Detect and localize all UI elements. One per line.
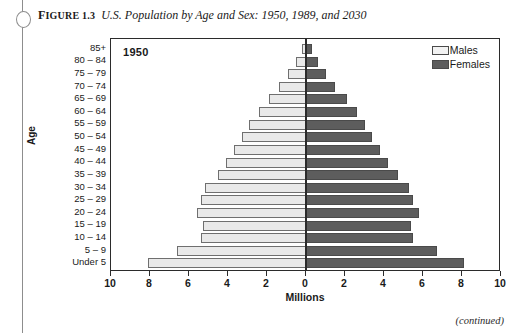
y-axis-tick-label: 20 – 24 [44,207,106,217]
bar-female [306,208,419,218]
bar-male [203,221,306,231]
x-axis-tick [344,271,345,276]
y-axis-tick-label: 85+ [44,43,106,53]
y-axis-tick-labels: 85+80 – 8475 – 7970 – 7465 – 6960 – 6455… [44,38,106,271]
figure-label: FIGURE 1.3 [38,10,95,21]
chart-plot-frame: 1950 MalesFemales [110,38,500,271]
x-axis-tick [383,271,384,276]
chart-year-annotation: 1950 [123,46,149,58]
x-axis-tick-label: 8 [449,277,473,289]
bar-female [306,258,464,268]
bar-male [259,107,306,117]
bar-female [306,195,413,205]
y-axis-tick-label: 50 – 54 [44,131,106,141]
bar-male [234,145,306,155]
bar-female [306,183,409,193]
y-axis-tick-label: Under 5 [44,257,106,267]
x-axis-tick-label: 10 [488,277,512,289]
bar-female [306,120,365,130]
bar-female [306,221,411,231]
x-axis-tick-label: 8 [137,277,161,289]
x-axis-tick [149,271,150,276]
figure-caption: FIGURE 1.3U.S. Population by Age and Sex… [38,8,367,23]
bar-male [242,132,306,142]
y-axis-tick-label: 40 – 44 [44,156,106,166]
bar-male [197,208,306,218]
y-axis-tick-label: 75 – 79 [44,68,106,78]
bar-male [148,258,306,268]
x-axis-tick [266,271,267,276]
bar-male [288,69,306,79]
bar-male [201,233,306,243]
figure-number: 1.3 [82,10,95,21]
y-axis-tick-label: 15 – 19 [44,219,106,229]
x-axis-tick-label: 10 [98,277,122,289]
bar-female [306,132,372,142]
y-axis-tick-label: 45 – 49 [44,144,106,154]
x-axis-tick-labels: 1086420246810 [110,277,500,291]
figure-label-prefix: F [38,8,46,22]
y-axis-tick-label: 80 – 84 [44,55,106,65]
x-axis-tick-label: 6 [410,277,434,289]
bar-female [306,246,437,256]
legend-swatch-icon [432,46,449,55]
bar-female [306,44,312,54]
x-axis-tick-label: 4 [215,277,239,289]
figure-label-rest: IGURE [46,10,80,21]
bar-female [306,158,388,168]
x-axis-tick-label: 4 [371,277,395,289]
x-axis-tick [500,271,501,276]
bar-male [201,195,306,205]
y-axis-tick-label: 60 – 64 [44,106,106,116]
bar-female [306,233,413,243]
bar-male [177,246,306,256]
y-axis-tick-label: 55 – 59 [44,118,106,128]
legend-swatch-icon [432,60,449,69]
x-axis-tick [422,271,423,276]
bar-male [269,94,306,104]
figure-title: U.S. Population by Age and Sex: 1950, 19… [101,8,366,22]
bar-female [306,57,318,67]
legend-item: Females [432,58,490,70]
bar-male [279,82,306,92]
x-axis-tick-label: 0 [293,277,317,289]
x-axis-tick [461,271,462,276]
continued-note: (continued) [456,315,504,326]
x-axis-title: Millions [0,291,526,303]
y-axis-tick-label: 70 – 74 [44,81,106,91]
bar-male [205,183,306,193]
bar-female [306,107,357,117]
bar-male [218,170,306,180]
x-axis-tick [305,271,306,276]
bar-female [306,170,398,180]
bar-female [306,145,380,155]
x-axis-tick-label: 6 [176,277,200,289]
legend-item: Males [432,44,490,56]
bar-female [306,69,326,79]
y-axis-tick-label: 25 – 29 [44,194,106,204]
bar-male [226,158,306,168]
page-margin-circle-icon [16,11,31,28]
chart-legend: MalesFemales [432,44,490,72]
bar-female [306,82,335,92]
bar-male [249,120,306,130]
x-axis-tick [227,271,228,276]
chart-center-axis-line [305,39,307,270]
y-axis-title: Age [26,126,37,145]
x-axis-tick [188,271,189,276]
y-axis-tick-label: 5 – 9 [44,245,106,255]
x-axis-tick-label: 2 [254,277,278,289]
y-axis-tick-label: 35 – 39 [44,169,106,179]
y-axis-tick-label: 10 – 14 [44,232,106,242]
bar-female [306,94,347,104]
legend-item-label: Males [450,44,478,56]
page-margin-rule [22,0,23,333]
y-axis-tick-label: 65 – 69 [44,93,106,103]
x-axis-tick-label: 2 [332,277,356,289]
x-axis-tick [110,271,111,276]
y-axis-tick-label: 30 – 34 [44,182,106,192]
legend-item-label: Females [450,58,490,70]
